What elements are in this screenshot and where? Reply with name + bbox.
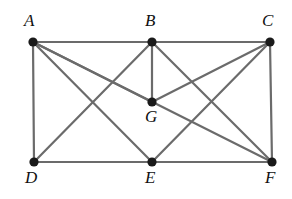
vertex-label-f: F bbox=[265, 169, 275, 186]
graph-vertex-g bbox=[147, 97, 156, 106]
vertex-label-b: B bbox=[145, 12, 155, 29]
graph-vertex-c bbox=[265, 37, 274, 46]
graph-figure: ABCGDEF bbox=[0, 0, 292, 199]
graph-edge-ad bbox=[33, 42, 34, 162]
graph-vertex-e bbox=[147, 157, 156, 166]
graph-vertex-f bbox=[267, 157, 276, 166]
graph-vertex-d bbox=[29, 157, 38, 166]
graph-edge-cf bbox=[270, 42, 272, 162]
vertex-label-d: D bbox=[25, 169, 37, 186]
graph-edge-cg bbox=[152, 42, 270, 102]
vertex-label-a: A bbox=[24, 12, 34, 29]
vertex-label-c: C bbox=[262, 12, 273, 29]
vertex-label-g: G bbox=[145, 108, 157, 125]
graph-vertex-b bbox=[147, 37, 156, 46]
vertex-label-e: E bbox=[145, 169, 155, 186]
graph-vertex-a bbox=[28, 37, 37, 46]
